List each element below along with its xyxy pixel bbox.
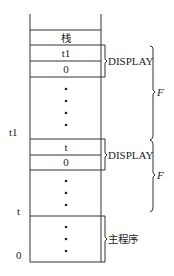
stack-diagram: 栈 t1 0 t 0 t1 t 0 DISPLAY DISPLAY 主程序 F … <box>0 0 174 276</box>
display2-brace <box>101 139 107 170</box>
frame1-label: F <box>156 86 164 98</box>
stack-header-label: 栈 <box>61 32 72 44</box>
address-t-label: t <box>17 205 20 217</box>
address-zero-label: 0 <box>16 249 22 261</box>
address-t1-label: t1 <box>9 126 18 138</box>
display2-group-label: DISPLAY <box>108 149 153 161</box>
display1-brace <box>101 45 107 77</box>
main-program-brace <box>101 216 107 262</box>
main-program-label: 主程序 <box>108 233 138 245</box>
display1-group-label: DISPLAY <box>108 55 153 67</box>
display2-top-label: t <box>64 141 67 153</box>
display2-bottom-label: 0 <box>63 156 69 168</box>
frame2-label: F <box>156 169 164 181</box>
display1-bottom-label: 0 <box>63 63 69 75</box>
display1-top-label: t1 <box>62 47 71 59</box>
